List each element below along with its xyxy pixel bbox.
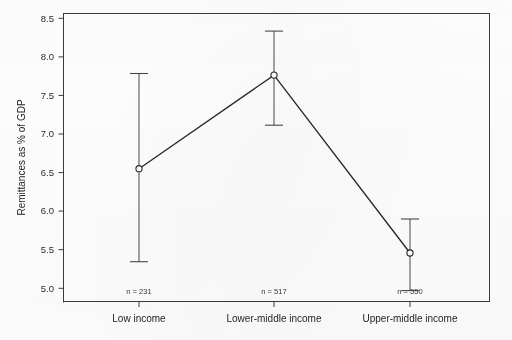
data-point-upper-middle-income	[407, 250, 413, 256]
line-chart-with-error-bars: 5.0 5.5 6.0 6.5 7.0 7.5 8.0 8.5 Remittan…	[0, 0, 512, 340]
y-tick-label-7.0: 7.0	[41, 128, 54, 139]
data-point-lower-middle-income	[271, 72, 277, 78]
y-axis-label: Remittances as % of GDP	[16, 99, 27, 215]
sample-size-label-lower-middle-income: n = 517	[261, 287, 287, 296]
chart-figure: 5.0 5.5 6.0 6.5 7.0 7.5 8.0 8.5 Remittan…	[0, 0, 512, 340]
sample-size-label-upper-middle-income: n = 550	[397, 287, 423, 296]
y-tick-label-5.0: 5.0	[41, 283, 54, 294]
x-tick-label-lower-middle-income: Lower-middle income	[226, 313, 321, 324]
plot-area-background	[63, 13, 490, 302]
y-tick-label-5.5: 5.5	[41, 244, 54, 255]
sample-size-label-low-income: n = 231	[126, 287, 152, 296]
x-axis-ticks	[139, 302, 410, 308]
y-tick-label-7.5: 7.5	[41, 90, 54, 101]
y-tick-label-6.0: 6.0	[41, 205, 54, 216]
x-axis-category-labels: Low income Lower-middle income Upper-mid…	[112, 313, 458, 324]
x-tick-label-upper-middle-income: Upper-middle income	[362, 313, 457, 324]
y-tick-label-8.0: 8.0	[41, 51, 54, 62]
y-axis-ticks	[59, 18, 64, 288]
y-axis-tick-labels: 5.0 5.5 6.0 6.5 7.0 7.5 8.0 8.5	[41, 13, 54, 294]
y-tick-label-6.5: 6.5	[41, 167, 54, 178]
x-tick-label-low-income: Low income	[112, 313, 166, 324]
y-tick-label-8.5: 8.5	[41, 13, 54, 24]
data-point-low-income	[136, 166, 142, 172]
